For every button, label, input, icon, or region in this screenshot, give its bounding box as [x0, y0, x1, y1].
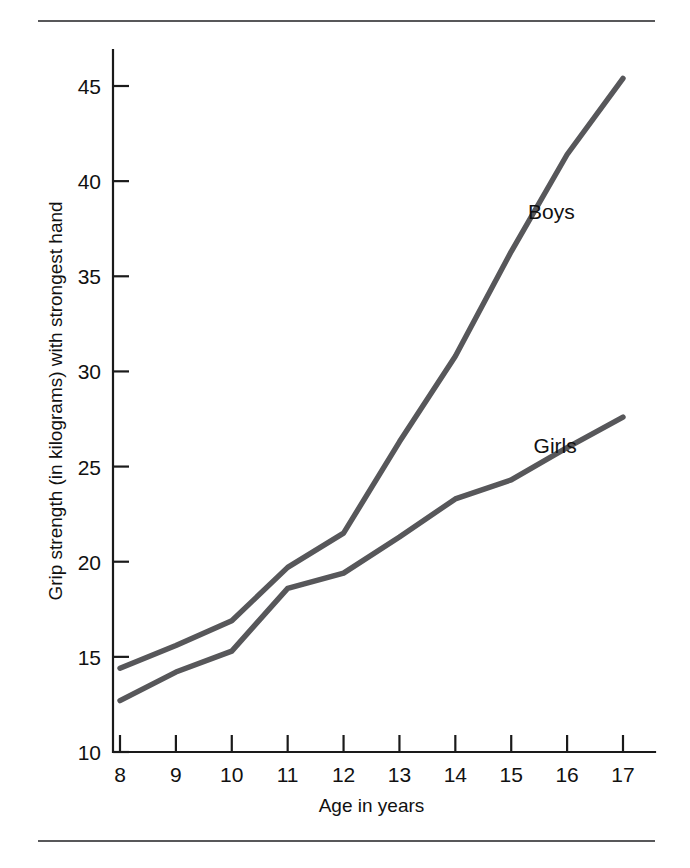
x-axis-tick-label: 8 — [114, 763, 126, 786]
y-axis-tick-label: 10 — [78, 741, 101, 764]
y-axis-tick-label: 30 — [78, 360, 101, 383]
x-axis-tick-label: 15 — [500, 763, 523, 786]
x-axis-tick-labels: 891011121314151617 — [114, 763, 635, 786]
x-axis-tick-label: 9 — [170, 763, 182, 786]
figure-container: 1015202530354045 891011121314151617 Boys… — [0, 0, 690, 868]
x-axis-tick-label: 11 — [277, 763, 299, 786]
y-axis-tick-label: 25 — [78, 456, 101, 479]
y-axis-tick-labels: 1015202530354045 — [78, 75, 101, 764]
axis-lines — [113, 50, 655, 752]
series-annotations: BoysGirls — [528, 200, 577, 457]
y-axis-tick-label: 40 — [78, 170, 101, 193]
axis-titles: Age in yearsGrip strength (in kilograms)… — [45, 201, 424, 816]
x-axis-ticks — [120, 735, 623, 752]
x-axis-tick-label: 17 — [611, 763, 634, 786]
series-line-boys — [120, 78, 623, 668]
x-axis-tick-label: 10 — [220, 763, 243, 786]
x-axis-tick-label: 13 — [388, 763, 411, 786]
y-axis-tick-label: 35 — [78, 265, 101, 288]
y-axis-title: Grip strength (in kilograms) with strong… — [45, 201, 66, 600]
data-series-group — [120, 78, 623, 700]
y-axis-tick-label: 20 — [78, 551, 101, 574]
x-axis-tick-label: 16 — [555, 763, 578, 786]
axes-group — [113, 50, 655, 752]
x-axis-title: Age in years — [319, 795, 425, 816]
line-chart-plot: 1015202530354045 891011121314151617 Boys… — [0, 0, 690, 868]
series-label-girls: Girls — [534, 434, 577, 457]
series-line-girls — [120, 417, 623, 701]
y-axis-tick-label: 45 — [78, 75, 101, 98]
y-axis-ticks — [113, 86, 129, 752]
x-axis-tick-label: 14 — [444, 763, 468, 786]
y-axis-tick-label: 15 — [78, 646, 101, 669]
series-label-boys: Boys — [528, 200, 575, 223]
x-axis-tick-label: 12 — [332, 763, 355, 786]
